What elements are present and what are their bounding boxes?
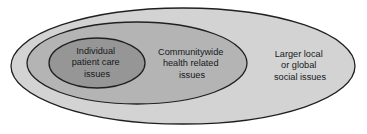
middle-ellipse-label-line-3: issues: [179, 70, 205, 80]
inner-ellipse-label-line-3: issues: [84, 69, 110, 79]
outer-ellipse-label-line-1: Larger local: [275, 49, 323, 59]
inner-ellipse-label-line-1: Individual: [76, 46, 115, 56]
outer-ellipse-label-line-3: social issues: [274, 72, 326, 82]
middle-ellipse-label-line-1: Communitywide: [158, 47, 223, 57]
venn-diagram-svg: Larger local or global social issues Com…: [0, 0, 367, 134]
middle-ellipse-label-line-2: health related: [163, 58, 219, 68]
nested-ellipse-diagram: Larger local or global social issues Com…: [0, 0, 367, 134]
inner-ellipse-label-line-2: patient care: [72, 57, 120, 67]
outer-ellipse-label: Larger local or global social issues: [274, 49, 326, 82]
outer-ellipse-label-line-2: or global: [281, 60, 316, 70]
